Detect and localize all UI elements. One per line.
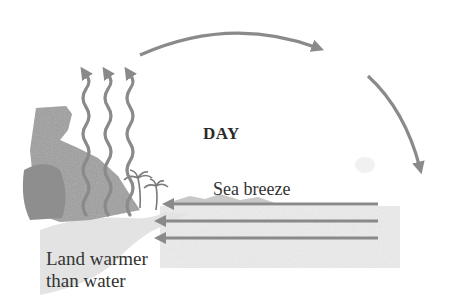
upper-flow-arrow xyxy=(140,33,318,55)
land-label-line-1: Land warmer xyxy=(46,248,148,270)
land-warmer-label: Land warmer than water xyxy=(46,248,148,292)
land-label-line-2: than water xyxy=(46,270,148,292)
descending-flow-arrow xyxy=(368,76,420,168)
faint-cloud-icon xyxy=(355,157,375,173)
day-label: DAY xyxy=(203,125,240,142)
island-land-icon xyxy=(23,106,140,222)
sea-breeze-label: Sea breeze xyxy=(213,180,290,198)
